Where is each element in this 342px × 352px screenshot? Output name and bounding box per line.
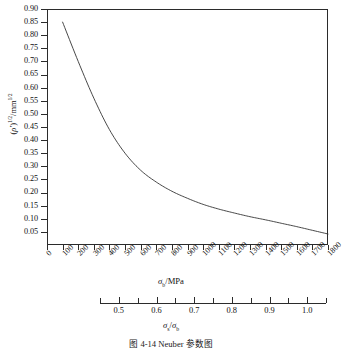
secondary-axis-major-tick — [157, 297, 158, 303]
secondary-axis-minor-tick — [100, 298, 101, 303]
secondary-axis-minor-tick — [251, 298, 252, 303]
secondary-axis-title: σs/σb — [0, 320, 342, 332]
secondary-axis-minor-tick — [138, 298, 139, 303]
secondary-axis-tick-label: 0.5 — [104, 306, 134, 315]
y-axis-tick-label: 0.05 — [0, 228, 38, 236]
y-axis-title-text: (ρ')1/2/mm1/2 — [9, 93, 18, 134]
x-axis-tick-label: 0 — [45, 249, 53, 257]
secondary-axis-minor-tick — [213, 298, 214, 303]
y-axis-title: (ρ')1/2/mm1/2 — [6, 71, 18, 157]
secondary-axis-tick-label: 0.9 — [255, 306, 285, 315]
secondary-axis-tick-label: 0.6 — [142, 306, 172, 315]
secondary-axis-minor-tick — [288, 298, 289, 303]
secondary-axis-minor-tick — [326, 298, 327, 303]
secondary-axis-tick-label: 1.0 — [292, 306, 322, 315]
figure-caption: 图 4-14 Neuber 参数图 — [0, 339, 342, 349]
secondary-axis-major-tick — [307, 297, 308, 303]
secondary-axis-major-tick — [270, 297, 271, 303]
secondary-axis-tick-label: 0.8 — [217, 306, 247, 315]
y-axis-tick-label: 0.90 — [0, 5, 38, 13]
x-axis-tick-label: 1800 — [326, 241, 342, 258]
y-axis-tick-label: 0.15 — [0, 202, 38, 210]
y-axis-tick-label: 0.85 — [0, 18, 38, 26]
y-axis-tick-label: 0.25 — [0, 175, 38, 183]
secondary-axis-minor-tick — [175, 298, 176, 303]
secondary-axis-major-tick — [119, 297, 120, 303]
y-axis-tick-label: 0.75 — [0, 44, 38, 52]
y-axis-tick-label: 0.70 — [0, 57, 38, 65]
y-axis-tick-label: 0.20 — [0, 188, 38, 196]
y-axis-tick-label: 0.30 — [0, 162, 38, 170]
secondary-axis-line — [100, 303, 326, 304]
secondary-axis-major-tick — [232, 297, 233, 303]
neuber-parameter-figure: 0.050.100.150.200.250.300.350.400.450.50… — [0, 0, 342, 352]
y-axis-tick-label: 0.10 — [0, 215, 38, 223]
secondary-axis-tick-label: 0.7 — [179, 306, 209, 315]
y-axis-tick-label: 0.80 — [0, 31, 38, 39]
x-axis-title: σb/MPa — [0, 276, 342, 288]
secondary-axis-major-tick — [194, 297, 195, 303]
data-curve — [47, 9, 328, 245]
